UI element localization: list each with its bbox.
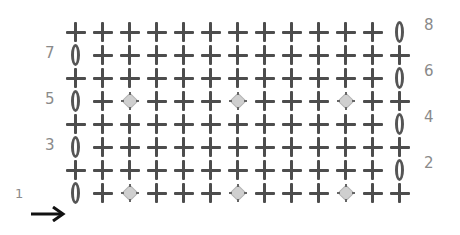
plus-icon [147,22,167,42]
stitch-cell [251,136,278,158]
stitch-cell [251,44,278,66]
plus-icon [147,183,167,203]
row-number-label: 2 [424,156,434,171]
stitch-cell [62,90,89,112]
plus-icon [309,91,329,111]
plus-icon [363,160,383,180]
oval-icon [71,182,80,204]
row-number-label: 1 [15,187,23,200]
stitch-cell [332,90,359,112]
plus-icon [309,45,329,65]
plus-icon [201,183,221,203]
stitch-cell [386,21,413,43]
plus-icon [93,137,113,157]
stitch-cell [305,44,332,66]
plus-icon [390,137,410,157]
stitch-cell [197,21,224,43]
plus-icon [174,183,194,203]
plus-icon [309,183,329,203]
row-number-label: 3 [45,138,55,153]
stitch-cell [278,44,305,66]
stitch-cell [62,44,89,66]
diamond-icon [337,184,355,202]
diamond-icon [121,92,139,110]
oval-icon [71,136,80,158]
plus-icon [147,114,167,134]
plus-icon [255,45,275,65]
stitch-cell [386,67,413,89]
stitch-cell [332,182,359,204]
stitch-cell [170,159,197,181]
plus-icon [174,137,194,157]
stitch-cell [359,67,386,89]
stitch-cell [89,136,116,158]
plus-icon [336,114,356,134]
stitch-cell [62,159,89,181]
stitch-cell [332,136,359,158]
stitch-cell [305,113,332,135]
stitch-cell [305,159,332,181]
oval-icon [395,67,404,89]
plus-icon [174,45,194,65]
stitch-cell [278,21,305,43]
oval-icon [395,21,404,43]
stitch-cell [305,182,332,204]
stitch-cell [116,182,143,204]
plus-icon [255,137,275,157]
stitch-cell [170,21,197,43]
plus-icon [282,91,302,111]
stitch-cell [278,113,305,135]
plus-icon [363,45,383,65]
stitch-cell [224,21,251,43]
plus-icon [174,114,194,134]
plus-icon [255,68,275,88]
stitch-cell [386,182,413,204]
plus-icon [309,22,329,42]
plus-icon [255,183,275,203]
plus-icon [93,22,113,42]
diamond-icon [337,92,355,110]
stitch-cell [143,21,170,43]
row-number-label: 5 [45,92,55,107]
plus-icon [309,68,329,88]
plus-icon [201,45,221,65]
plus-icon [336,160,356,180]
plus-icon [228,137,248,157]
stitch-cell [89,44,116,66]
stitch-cell [170,113,197,135]
stitch-cell [143,136,170,158]
stitch-cell [332,21,359,43]
plus-icon [282,160,302,180]
plus-icon [93,160,113,180]
plus-icon [174,160,194,180]
oval-icon [395,113,404,135]
stitch-cell [62,67,89,89]
stitch-cell [332,67,359,89]
stitch-chart: 87654321 [0,0,460,235]
stitch-cell [89,113,116,135]
stitch-cell [359,21,386,43]
arrow-right-icon [30,206,66,222]
plus-icon [120,68,140,88]
row-number-label: 8 [424,18,434,33]
plus-icon [66,160,86,180]
stitch-cell [197,136,224,158]
plus-icon [390,45,410,65]
stitch-cell [278,67,305,89]
stitch-cell [251,67,278,89]
plus-icon [363,91,383,111]
plus-icon [336,45,356,65]
plus-icon [282,114,302,134]
stitch-cell [278,136,305,158]
stitch-cell [62,136,89,158]
plus-icon [336,22,356,42]
plus-icon [93,91,113,111]
plus-icon [255,114,275,134]
plus-icon [282,68,302,88]
plus-icon [201,137,221,157]
plus-icon [255,91,275,111]
stitch-cell [197,159,224,181]
stitch-cell [251,159,278,181]
row-number-label: 7 [45,46,55,61]
plus-icon [228,22,248,42]
